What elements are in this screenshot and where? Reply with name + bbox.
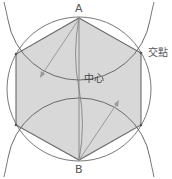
label-intersection: 交點	[148, 48, 168, 58]
hexagon-construction-diagram: A B 中心 交點	[0, 0, 172, 179]
label-center: 中心	[84, 74, 104, 84]
hexagon	[16, 18, 141, 160]
diagram-svg	[0, 0, 172, 179]
label-point-a: A	[75, 3, 83, 14]
label-point-b: B	[75, 164, 83, 175]
